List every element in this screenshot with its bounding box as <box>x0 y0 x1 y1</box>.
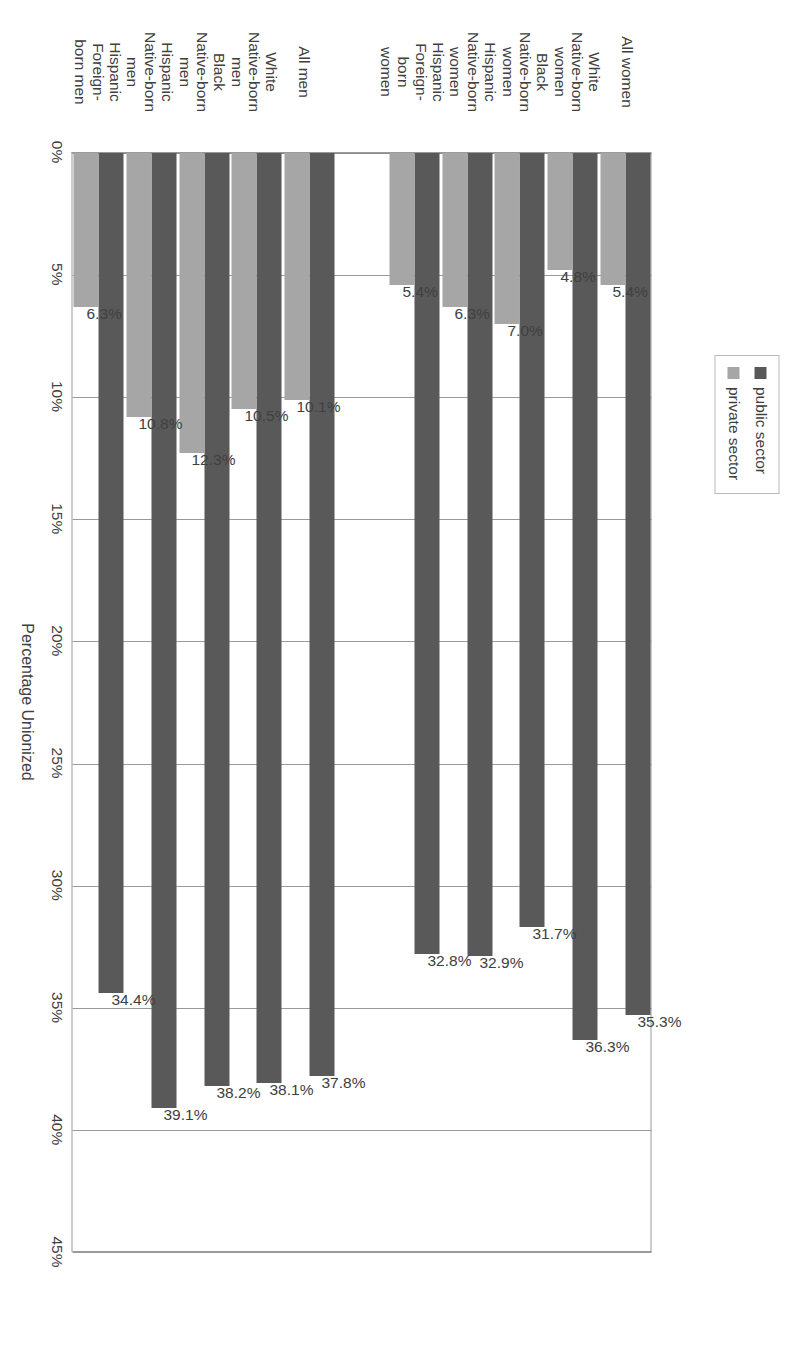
bar-private[interactable] <box>442 153 467 307</box>
value-tick-label: 20% <box>47 625 65 656</box>
bar-public[interactable] <box>151 153 176 1108</box>
bar-group: 32.9%6.3% <box>440 153 493 1252</box>
legend-label: public sector <box>751 387 769 474</box>
bar-groups: 35.3%5.4%36.3%4.8%31.7%7.0%32.9%6.3%32.8… <box>72 153 651 1252</box>
category-label: HispanicNative-bornwomen <box>446 0 498 148</box>
bar-value-label: 39.1% <box>163 1107 207 1123</box>
bar-private[interactable] <box>600 153 625 285</box>
chart-legend: public sectorprivate sector <box>714 355 779 494</box>
value-tick-label: 35% <box>47 992 65 1023</box>
category-label-line: Foreign- <box>88 43 105 101</box>
bar-row: 5.4% <box>600 153 625 1252</box>
legend-swatch-icon <box>727 367 739 379</box>
bar-private[interactable] <box>494 153 519 324</box>
bar-row: 6.3% <box>442 153 467 1252</box>
category-label-line: men <box>175 57 192 87</box>
category-label-line: Foreign- <box>411 43 428 101</box>
category-label-line: Native-born <box>568 32 585 112</box>
value-tick-label: 15% <box>47 503 65 534</box>
category-label-line: born men <box>71 39 88 104</box>
category-label-line: White <box>585 52 602 92</box>
bar-group: 34.4%6.3% <box>72 153 125 1252</box>
bar-row: 31.7% <box>519 153 544 1252</box>
category-label-line: Hispanic <box>481 42 498 101</box>
bar-row: 6.3% <box>73 153 98 1252</box>
category-label: All women <box>602 0 651 148</box>
legend-swatch-icon <box>754 367 766 379</box>
category-label-line: Native-born <box>140 32 157 112</box>
bar-value-label: 38.2% <box>216 1085 260 1101</box>
category-label-line: All men <box>295 46 312 98</box>
value-axis-title: Percentage Unionized <box>17 152 35 1252</box>
legend-label: private sector <box>724 387 742 480</box>
category-label-line: Hispanic <box>158 42 175 101</box>
bar-value-label: 10.5% <box>244 409 288 425</box>
bar-row: 4.8% <box>547 153 572 1252</box>
category-label-line: born <box>394 56 411 87</box>
category-label-line: White <box>262 52 279 92</box>
bar-value-label: 32.9% <box>479 956 523 972</box>
bar-row: 10.8% <box>126 153 151 1252</box>
bar-value-label: 5.4% <box>402 284 437 300</box>
category-label: All men <box>279 0 328 148</box>
category-label-line: men <box>123 57 140 87</box>
bar-public[interactable] <box>519 153 544 927</box>
bar-value-label: 4.8% <box>560 269 595 285</box>
bar-private[interactable] <box>73 153 98 307</box>
bar-group: 36.3%4.8% <box>546 153 599 1252</box>
category-label-line: Black <box>533 53 550 91</box>
category-label-line: men <box>227 57 244 87</box>
bar-row: 38.2% <box>204 153 229 1252</box>
category-label: HispanicNative-bornmen <box>123 0 175 148</box>
category-label: HispanicForeign-born men <box>71 0 123 148</box>
category-label-line: women <box>550 47 567 97</box>
value-tick-label: 30% <box>47 870 65 901</box>
category-label-line: women <box>377 47 394 97</box>
category-label-line: Native-born <box>463 32 480 112</box>
bar-private[interactable] <box>231 153 256 409</box>
bar-value-label: 12.3% <box>191 453 235 469</box>
bar-value-label: 5.4% <box>612 284 647 300</box>
value-tick-label: 25% <box>47 748 65 779</box>
bar-value-label: 38.1% <box>269 1083 313 1099</box>
bar-value-label: 32.8% <box>427 953 471 969</box>
bar-row: 5.4% <box>389 153 414 1252</box>
bar-private[interactable] <box>389 153 414 285</box>
bar-group: 32.8%5.4% <box>388 153 441 1252</box>
category-label-line: Native-born <box>516 32 533 112</box>
bar-public[interactable] <box>467 153 492 956</box>
bar-private[interactable] <box>284 153 309 400</box>
bar-value-label: 10.1% <box>296 399 340 415</box>
bar-private[interactable] <box>126 153 151 417</box>
bar-row: 7.0% <box>494 153 519 1252</box>
bar-public[interactable] <box>309 153 334 1076</box>
category-label: WhiteNative-bornmen <box>227 0 279 148</box>
bar-public[interactable] <box>98 153 123 993</box>
bar-private[interactable] <box>547 153 572 270</box>
bar-public[interactable] <box>414 153 439 954</box>
chart-plot-area: 35.3%5.4%36.3%4.8%31.7%7.0%32.9%6.3%32.8… <box>71 152 651 1252</box>
category-label: HispanicForeign-bornwomen <box>377 0 446 148</box>
bar-value-label: 35.3% <box>637 1014 681 1030</box>
category-axis-labels: All womenWhiteNative-bornwomenBlackNativ… <box>71 0 651 148</box>
category-label <box>328 0 377 148</box>
bar-public[interactable] <box>572 153 597 1040</box>
bar-group: 39.1%10.8% <box>125 153 178 1252</box>
bar-public[interactable] <box>256 153 281 1083</box>
bar-value-label: 6.3% <box>86 306 121 322</box>
value-tick-label: 40% <box>47 1114 65 1145</box>
legend-item-private[interactable]: private sector <box>724 367 742 480</box>
category-label: BlackNative-bornmen <box>175 0 227 148</box>
bar-value-label: 36.3% <box>585 1039 629 1055</box>
category-label-line: Black <box>210 53 227 91</box>
bar-private[interactable] <box>179 153 204 453</box>
legend-item-public[interactable]: public sector <box>751 367 769 480</box>
category-label-line: Native-born <box>193 32 210 112</box>
category-label-line: All women <box>618 36 635 108</box>
category-label-line: Hispanic <box>106 42 123 101</box>
bar-row: 32.8% <box>414 153 439 1252</box>
bar-public[interactable] <box>204 153 229 1086</box>
bar-value-label: 6.3% <box>454 306 489 322</box>
bar-value-label: 10.8% <box>138 416 182 432</box>
category-label: BlackNative-bornwomen <box>498 0 550 148</box>
